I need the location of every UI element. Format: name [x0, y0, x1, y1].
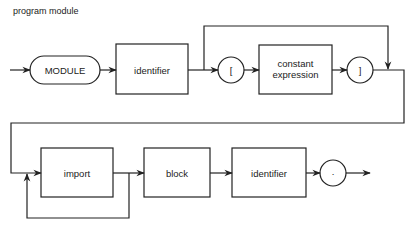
syntax-diagram: MODULE identifier [ constant expression … — [0, 0, 414, 226]
constant-label: constant — [278, 58, 314, 69]
lbracket-label: [ — [230, 65, 233, 76]
import-loop — [27, 173, 129, 218]
identifier2-label: identifier — [251, 168, 287, 179]
import-label: import — [64, 168, 91, 179]
wrap-line — [11, 70, 404, 173]
identifier-label: identifier — [134, 65, 170, 76]
rbracket-label: ] — [359, 65, 362, 76]
expression-label: expression — [273, 69, 319, 80]
period-label: . — [332, 166, 335, 177]
block-label: block — [166, 168, 188, 179]
module-label: MODULE — [45, 65, 86, 76]
